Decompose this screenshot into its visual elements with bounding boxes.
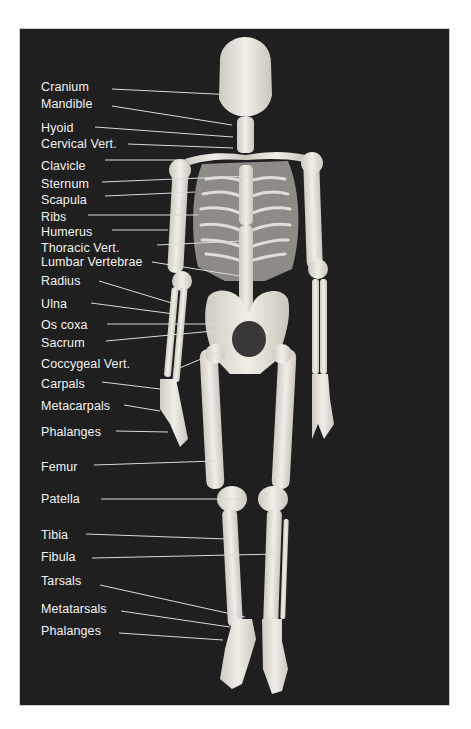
leader-line bbox=[121, 611, 230, 627]
label-cranium: Cranium bbox=[41, 80, 89, 94]
leader-line bbox=[128, 144, 233, 148]
leader-line bbox=[124, 405, 160, 411]
label-lumbar-vertebrae: Lumbar Vertebrae bbox=[41, 255, 143, 269]
leader-line bbox=[112, 89, 235, 95]
label-metacarpals: Metacarpals bbox=[41, 399, 110, 413]
leader-line bbox=[112, 106, 232, 125]
label-tarsals: Tarsals bbox=[41, 574, 81, 588]
label-sacrum: Sacrum bbox=[41, 336, 85, 350]
label-foot-phalanges: Phalanges bbox=[41, 624, 101, 638]
label-mandible: Mandible bbox=[41, 97, 93, 111]
leader-line bbox=[86, 534, 227, 539]
label-thoracic-vert: Thoracic Vert. bbox=[41, 241, 120, 255]
leader-line bbox=[91, 303, 174, 314]
label-radius: Radius bbox=[41, 274, 81, 288]
label-hand-phalanges: Phalanges bbox=[41, 425, 101, 439]
leader-line bbox=[99, 281, 175, 304]
label-coccygeal-vert: Coccygeal Vert. bbox=[41, 357, 130, 371]
label-clavicle: Clavicle bbox=[41, 159, 86, 173]
label-sternum: Sternum bbox=[41, 177, 89, 191]
label-hyoid: Hyoid bbox=[41, 121, 73, 135]
left-hand bbox=[160, 379, 188, 447]
label-patella: Patella bbox=[41, 492, 80, 506]
right-hand bbox=[312, 374, 334, 439]
leader-line bbox=[92, 554, 278, 558]
label-cervical-vert: Cervical Vert. bbox=[41, 137, 117, 151]
label-fibula: Fibula bbox=[41, 550, 76, 564]
label-metatarsals: Metatarsals bbox=[41, 602, 107, 616]
skeleton-diagram-panel: Cranium Mandible Hyoid Cervical Vert. Cl… bbox=[19, 28, 450, 706]
leader-line bbox=[94, 461, 215, 465]
label-ribs: Ribs bbox=[41, 210, 66, 224]
leader-line bbox=[116, 431, 168, 432]
skull-cranium bbox=[219, 37, 272, 117]
left-foot bbox=[220, 619, 256, 689]
label-femur: Femur bbox=[41, 460, 78, 474]
label-ulna: Ulna bbox=[41, 297, 67, 311]
label-os-coxa: Os coxa bbox=[41, 318, 88, 332]
label-humerus: Humerus bbox=[41, 225, 92, 239]
leader-line bbox=[102, 382, 160, 389]
leader-line bbox=[100, 585, 245, 617]
label-carpals: Carpals bbox=[41, 377, 85, 391]
leader-line bbox=[119, 633, 223, 640]
right-foot bbox=[262, 619, 288, 694]
label-tibia: Tibia bbox=[41, 528, 68, 542]
leader-line bbox=[95, 127, 233, 137]
label-scapula: Scapula bbox=[41, 193, 87, 207]
